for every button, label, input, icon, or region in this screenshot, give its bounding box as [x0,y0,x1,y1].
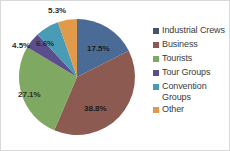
legend-item-other[interactable]: Other [153,104,230,117]
legend-swatch-icon [153,28,159,34]
legend-swatch-icon [153,42,159,48]
chart-legend: Industrial Crews Business Tourists Tour … [153,25,230,135]
legend-label: Convention Groups [162,81,230,103]
legend-item-tourists[interactable]: Tourists [153,53,230,66]
pie-label-business: 38.8% [84,105,107,113]
legend-label: Tourists [162,53,192,64]
legend-swatch-icon [153,107,159,113]
pie-label-other: 5.3% [48,7,66,15]
legend-item-business[interactable]: Business [153,39,230,52]
legend-label: Other [162,104,184,115]
pie-svg [1,1,153,151]
legend-swatch-icon [153,70,159,76]
pie-label-tour-groups: 4.5% [12,42,30,50]
legend-swatch-icon [153,84,159,90]
pie-plot-area: 17.5% 38.8% 27.1% 4.5% 6.6% 5.3% [1,1,153,151]
pie-label-convention-groups: 6.6% [36,40,54,48]
legend-label: Business [162,39,198,50]
legend-swatch-icon [153,56,159,62]
legend-item-convention-groups[interactable]: Convention Groups [153,81,230,103]
legend-item-tour-groups[interactable]: Tour Groups [153,67,230,80]
pie-label-industrial-crews: 17.5% [87,45,110,53]
legend-label: Industrial Crews [162,25,225,36]
legend-label: Tour Groups [162,67,210,78]
pie-chart-figure: 17.5% 38.8% 27.1% 4.5% 6.6% 5.3% Industr… [0,0,230,151]
pie-label-tourists: 27.1% [18,91,41,99]
pie-slices [19,19,135,135]
legend-item-industrial-crews[interactable]: Industrial Crews [153,25,230,38]
